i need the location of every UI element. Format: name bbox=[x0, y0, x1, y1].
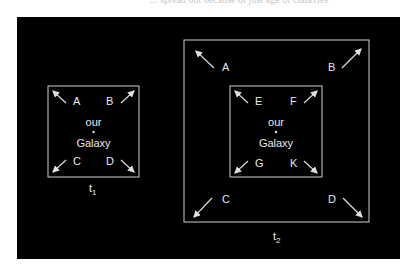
arrow-icon bbox=[304, 91, 317, 103]
arrow-icon bbox=[304, 161, 317, 173]
arrow-icon bbox=[53, 91, 66, 103]
arrow-icon bbox=[235, 161, 248, 173]
our-label: our bbox=[268, 116, 284, 128]
galaxy-label-f: F bbox=[290, 95, 297, 107]
time-label-t2: t2 bbox=[273, 230, 281, 245]
galaxy-label-e: E bbox=[255, 95, 262, 107]
galaxy-label-b: B bbox=[106, 95, 113, 107]
arrow-icon bbox=[53, 160, 66, 172]
galaxy-label-d: D bbox=[106, 155, 114, 167]
our-galaxy-dot bbox=[92, 131, 94, 133]
arrow-icon bbox=[121, 91, 134, 103]
galaxy-label-b: B bbox=[328, 61, 335, 73]
galaxy-label-a: A bbox=[222, 61, 230, 73]
arrow-icon bbox=[194, 198, 212, 217]
galaxy-label-a: A bbox=[73, 95, 81, 107]
time-label-t1: t1 bbox=[89, 182, 97, 197]
arrow-icon bbox=[196, 51, 214, 68]
galaxy-label-k: K bbox=[290, 157, 298, 169]
galaxy-label-c: C bbox=[222, 193, 230, 205]
galaxy-label-c: C bbox=[73, 155, 81, 167]
galaxy-label-g: G bbox=[255, 157, 264, 169]
expansion-diagram: A B C D our Galaxy t1 A B C D t2 E F G K… bbox=[0, 0, 405, 275]
galaxy-label: Galaxy bbox=[259, 137, 294, 149]
arrow-icon bbox=[235, 91, 248, 103]
t2-inner-box: E F G K our Galaxy bbox=[230, 86, 322, 177]
arrow-icon bbox=[342, 49, 361, 68]
galaxy-label-d: D bbox=[328, 193, 336, 205]
our-galaxy-dot bbox=[275, 131, 277, 133]
arrow-icon bbox=[343, 198, 362, 217]
our-label: our bbox=[86, 116, 102, 128]
arrow-icon bbox=[121, 160, 134, 172]
t1-box: A B C D our Galaxy t1 bbox=[48, 86, 139, 197]
galaxy-label: Galaxy bbox=[76, 137, 111, 149]
